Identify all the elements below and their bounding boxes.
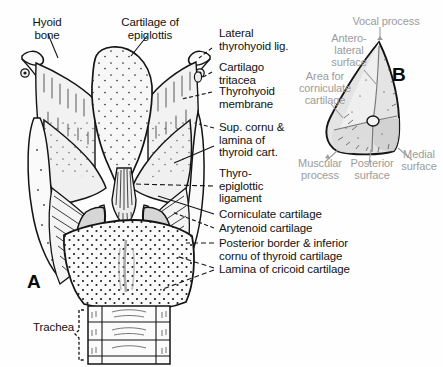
- label-corniculate-cartilage: Corniculate cartilage: [219, 208, 322, 221]
- trachea: [88, 306, 170, 364]
- label-sup-cornu-lamina-thyroid: Sup. cornu & lamina of thyroid cart.: [219, 121, 284, 159]
- panel-tag-b: B: [392, 64, 406, 86]
- arytenoid-apex-convergence: [367, 116, 379, 126]
- label-thyroepiglottic-ligament: Thyro- epiglottic ligament: [219, 167, 263, 205]
- label-cartilage-of-epiglottis: Cartilage of epiglottis: [102, 16, 198, 41]
- label-cartilago-tritacea: Cartilago tritacea: [219, 61, 264, 86]
- label-antero-lateral-surface: Antero- lateral surface: [318, 32, 380, 68]
- label-posterior-surface: Posterior surface: [343, 157, 401, 181]
- label-posterior-border-inferior-cornu: Posterior border & inferior cornu of thy…: [219, 237, 348, 262]
- label-vocal-process: Vocal process: [336, 15, 436, 27]
- label-area-for-corniculate-cartilage: Area for corniculate cartilage: [289, 70, 361, 106]
- cartilago-tritacea-right: [194, 72, 201, 82]
- label-medial-surface: Medial surface: [396, 148, 442, 172]
- label-thyrohyoid-membrane: Thyrohyoid membrane: [219, 85, 275, 110]
- lamina-of-cricoid-cartilage: [60, 218, 200, 318]
- panel-tag-a: A: [27, 271, 41, 293]
- label-hyoid-bone: Hyoid bone: [16, 16, 78, 41]
- label-lateral-thyrohyoid-lig: Lateral thyrohyoid lig.: [219, 27, 288, 52]
- trachea-bracket: [75, 310, 84, 360]
- label-arytenoid-cartilage: Arytenoid cartilage: [219, 222, 312, 235]
- panel-a-drawing: [21, 34, 214, 364]
- label-lamina-of-cricoid-cartilage: Lamina of cricoid cartilage: [219, 263, 350, 276]
- label-muscular-process: Muscular process: [289, 157, 351, 181]
- figure-canvas: Hyoid bone Cartilage of epiglottis Later…: [0, 0, 443, 367]
- label-trachea: Trachea: [33, 321, 74, 334]
